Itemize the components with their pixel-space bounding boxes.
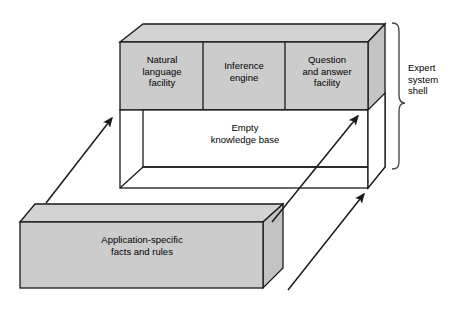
arrow-right-to-shell-base [288, 194, 364, 290]
arrow-left-to-knowledge-base [46, 118, 112, 203]
application-block-top-face [20, 204, 283, 222]
expert-system-shell-brace [392, 23, 405, 169]
expert-system-shell-diagram: Natural language facility Inference engi… [0, 0, 465, 311]
shell-panel-row-front [120, 42, 368, 110]
diagram-canvas [0, 0, 465, 311]
knowledge-base-right-face [368, 93, 385, 188]
knowledge-base-inner-back [143, 110, 368, 167]
shell-top-face [120, 24, 385, 42]
application-block-front-face [20, 222, 263, 288]
